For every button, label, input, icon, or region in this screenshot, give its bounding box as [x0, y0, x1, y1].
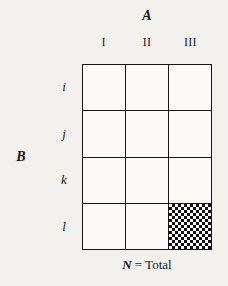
table-cell-j-III [169, 111, 211, 156]
row-header-4: l [52, 204, 76, 251]
contingency-table-figure: A I II III B i j k l [0, 0, 228, 286]
table-cell-j-II [126, 111, 169, 156]
caption-equals: = [135, 257, 142, 272]
table-cell-l-I [83, 204, 126, 249]
row-variable-label: B [6, 149, 36, 165]
table-row [83, 111, 211, 157]
table-cell-l-III-shaded [169, 204, 211, 249]
column-header-3: III [169, 33, 212, 51]
row-header-column: i j k l [52, 64, 76, 250]
column-header-row: I II III [82, 33, 212, 51]
caption-symbol: N [122, 257, 131, 272]
table-row [83, 158, 211, 204]
caption-word: Total [145, 257, 172, 272]
column-variable-label: A [82, 8, 212, 24]
column-header-1: I [82, 33, 125, 51]
row-header-1: i [52, 64, 76, 111]
table-cell-k-I [83, 158, 126, 203]
table-grid [82, 64, 212, 250]
table-cell-i-III [169, 65, 211, 110]
row-header-2: j [52, 111, 76, 158]
table-cell-i-I [83, 65, 126, 110]
row-header-3: k [52, 157, 76, 204]
table-row [83, 204, 211, 249]
table-cell-j-I [83, 111, 126, 156]
table-cell-l-II [126, 204, 169, 249]
table-row [83, 65, 211, 111]
column-header-2: II [125, 33, 168, 51]
table-cell-k-III [169, 158, 211, 203]
table-cell-k-II [126, 158, 169, 203]
figure-caption: N=Total [82, 257, 212, 273]
table-cell-i-II [126, 65, 169, 110]
